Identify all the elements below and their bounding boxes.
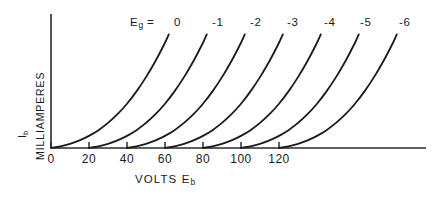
- x-axis-title-subscript: b: [190, 177, 195, 187]
- grid-voltage-legend-value: -6: [399, 16, 411, 28]
- x-axis-title: VOLTS Eb: [135, 174, 195, 187]
- grid-voltage-legend-value: -5: [360, 16, 372, 28]
- curve-series: [279, 34, 397, 148]
- x-axis-tick-label-row: 020406080100120: [0, 152, 434, 168]
- curve-series: [51, 34, 169, 148]
- curve-series: [165, 34, 283, 148]
- curve-series: [203, 34, 321, 148]
- x-axis-tick-label: 120: [268, 152, 290, 166]
- grid-voltage-legend-value: -1: [212, 16, 224, 28]
- y-axis-units-label: MILLIAMPERES: [34, 72, 46, 160]
- y-axis-label-group: Ib MILLIAMPERES: [0, 30, 46, 140]
- grid-voltage-legend-row: Eg =0-1-2-3-4-5-6: [0, 16, 434, 32]
- y-axis-symbol-main: I: [16, 135, 28, 138]
- x-axis-tick-label: 40: [120, 152, 134, 166]
- x-axis-tick-label: 20: [82, 152, 96, 166]
- axes: [51, 14, 426, 148]
- y-axis-symbol-subscript: b: [21, 130, 30, 134]
- plate-characteristic-figure: Ib MILLIAMPERES Eg =0-1-2-3-4-5-6 020406…: [0, 0, 434, 198]
- legend-prefix-equals: =: [143, 16, 154, 28]
- curve-series: [241, 34, 359, 148]
- y-axis-symbol-label: Ib: [16, 130, 30, 138]
- curve-series-group: [51, 34, 397, 148]
- grid-voltage-legend-value: -3: [287, 16, 299, 28]
- grid-voltage-legend-value: 0: [174, 16, 181, 28]
- curve-series: [127, 34, 245, 148]
- x-axis-title-main: VOLTS E: [135, 173, 190, 185]
- x-axis-tick-label: 80: [196, 152, 210, 166]
- curve-series: [89, 34, 207, 148]
- x-axis-tick-label: 100: [230, 152, 252, 166]
- grid-voltage-legend-value: -2: [250, 16, 262, 28]
- x-axis-tick-label: 0: [47, 152, 54, 166]
- x-axis-tick-label: 60: [158, 152, 172, 166]
- grid-voltage-legend-prefix: Eg =: [130, 16, 154, 30]
- grid-voltage-legend-value: -4: [324, 16, 336, 28]
